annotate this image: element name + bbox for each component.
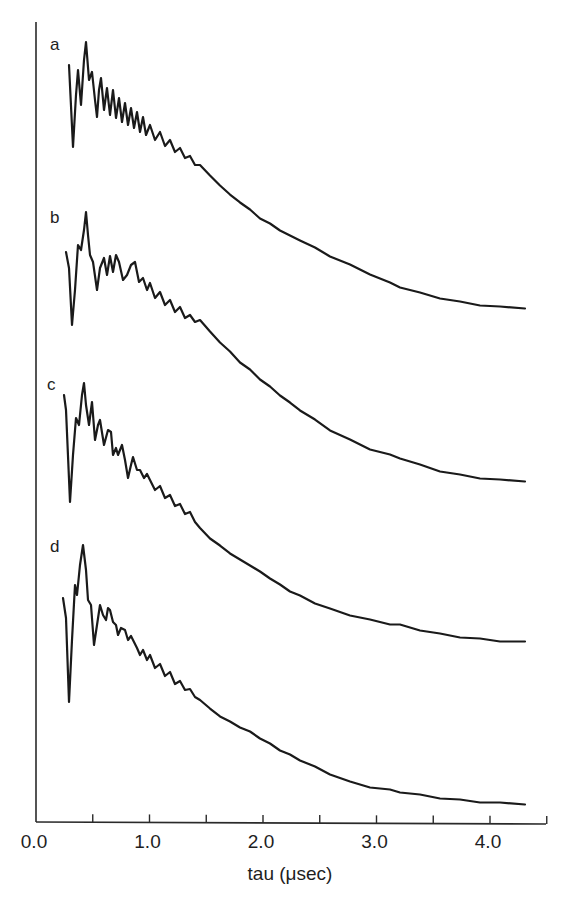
x-tick-label: 2.0 [248, 831, 274, 852]
x-tick-label: 3.0 [361, 831, 387, 852]
x-axis-title: tau (μsec) [248, 863, 333, 884]
decay-traces-chart: 0.01.02.03.04.0 tau (μsec) a b c d [0, 0, 567, 910]
trace-d-line [63, 545, 525, 804]
x-axis: 0.01.02.03.04.0 tau (μsec) [21, 814, 547, 884]
trace-labels: a b c d [47, 35, 60, 556]
x-tick-label: 0.0 [21, 831, 47, 852]
x-tick-label: 4.0 [475, 831, 501, 852]
trace-label-a: a [50, 35, 60, 54]
x-tick-labels: 0.01.02.03.04.0 [21, 831, 501, 852]
trace-b-line [66, 212, 525, 481]
trace-label-d: d [50, 537, 59, 556]
x-axis-line [36, 822, 546, 824]
x-tick-label: 1.0 [134, 831, 160, 852]
trace-label-b: b [50, 208, 59, 227]
traces [63, 42, 525, 804]
trace-c-line [64, 383, 525, 642]
trace-label-c: c [47, 375, 56, 394]
